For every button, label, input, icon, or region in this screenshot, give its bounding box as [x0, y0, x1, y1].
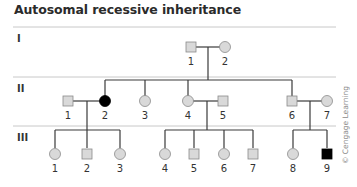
individual-i-2: 2: [220, 42, 231, 68]
individual-iii-2: 2: [82, 149, 92, 174]
male-symbol: [82, 149, 92, 159]
male-symbol: [287, 96, 297, 106]
individual-number: 1: [188, 56, 194, 67]
individual-iii-7: 7: [248, 149, 258, 174]
individual-number: 5: [220, 110, 226, 121]
male-symbol: [186, 42, 196, 52]
individual-ii-6: 6: [287, 96, 297, 121]
individual-number: 6: [221, 163, 227, 174]
affected-female-symbol: [100, 96, 111, 107]
individual-number: 4: [185, 110, 191, 121]
female-symbol: [288, 149, 299, 160]
individual-iii-3: 3: [115, 149, 126, 175]
individual-number: 1: [52, 163, 58, 174]
female-symbol: [140, 96, 151, 107]
female-symbol: [160, 149, 171, 160]
female-symbol: [220, 42, 231, 53]
individual-ii-4: 4: [183, 96, 194, 122]
individual-ii-7: 7: [322, 96, 333, 122]
individual-number: 7: [324, 110, 330, 121]
individual-number: 8: [290, 163, 296, 174]
individual-number: 3: [117, 163, 123, 174]
pedigree-chart: I II III 1: [0, 0, 357, 187]
female-symbol: [50, 149, 61, 160]
individual-number: 3: [142, 110, 148, 121]
individual-number: 2: [84, 163, 90, 174]
individual-number: 2: [102, 110, 108, 121]
individual-iii-6: 6: [219, 149, 230, 175]
individual-number: 2: [222, 56, 228, 67]
individual-iii-8: 8: [288, 149, 299, 175]
male-symbol: [218, 96, 228, 106]
individual-ii-5: 5: [218, 96, 228, 121]
female-symbol: [115, 149, 126, 160]
male-symbol: [63, 96, 73, 106]
individual-iii-1: 1: [50, 149, 61, 175]
generation-label-i: I: [17, 33, 21, 44]
individual-ii-2: 2: [100, 96, 111, 122]
individual-iii-5: 5: [189, 149, 199, 174]
female-symbol: [322, 96, 333, 107]
individual-number: 4: [162, 163, 168, 174]
female-symbol: [183, 96, 194, 107]
individual-iii-4: 4: [160, 149, 171, 175]
copyright-notice: © Cengage Learning: [341, 86, 350, 164]
individual-number: 7: [250, 163, 256, 174]
individual-number: 1: [65, 110, 71, 121]
generation-label-ii: II: [17, 83, 24, 94]
individual-iii-9: 9: [322, 149, 332, 174]
individual-number: 5: [191, 163, 197, 174]
male-symbol: [189, 149, 199, 159]
individual-ii-3: 3: [140, 96, 151, 122]
individual-i-1: 1: [186, 42, 196, 67]
affected-male-symbol: [322, 149, 332, 159]
generation-label-iii: III: [17, 132, 28, 143]
female-symbol: [219, 149, 230, 160]
individual-ii-1: 1: [63, 96, 73, 121]
individual-number: 9: [324, 163, 330, 174]
male-symbol: [248, 149, 258, 159]
individual-number: 6: [289, 110, 295, 121]
